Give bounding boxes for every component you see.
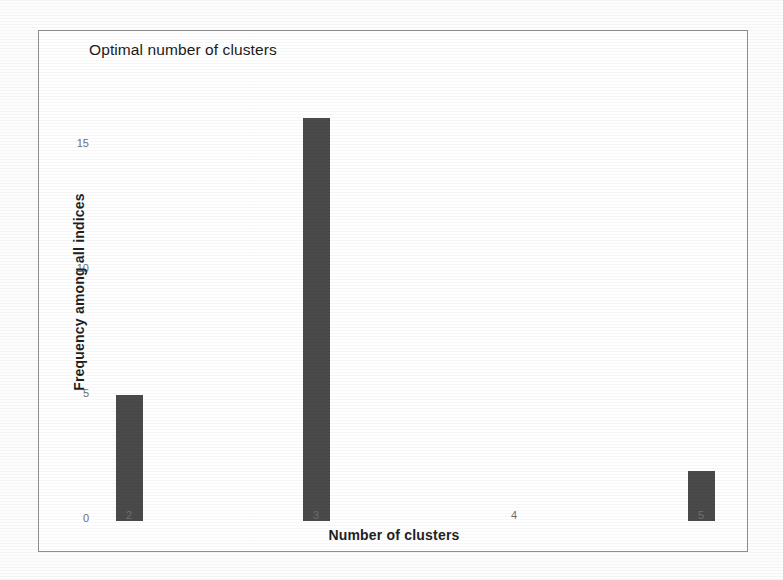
plot-frame: Optimal number of clusters 0 5 10 15 Fre… — [38, 30, 748, 552]
x-tick-label-3: 3 — [296, 509, 336, 521]
x-tick-label-4: 4 — [494, 509, 534, 521]
x-tick-label-5: 5 — [681, 509, 721, 521]
x-axis-title: Number of clusters — [39, 527, 749, 543]
figure: Optimal number of clusters 0 5 10 15 Fre… — [0, 0, 783, 580]
plot-area: Optimal number of clusters 0 5 10 15 Fre… — [39, 31, 749, 553]
x-axis-tick-labels: 2 3 4 5 — [39, 31, 749, 553]
x-tick-label-2: 2 — [109, 509, 149, 521]
